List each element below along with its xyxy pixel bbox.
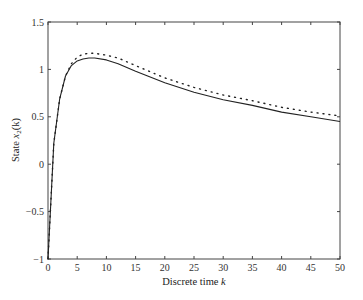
x-tick-label: 5	[75, 262, 80, 273]
y-tick-label: 1	[39, 64, 44, 75]
x-tick-label: 30	[218, 262, 228, 273]
y-tick-label: 0.5	[32, 111, 45, 122]
y-tick-label: 0	[39, 159, 44, 170]
line-chart: 05101520253035404550 −1−0.500.511.5 Disc…	[0, 0, 363, 300]
x-tick-label: 50	[335, 262, 345, 273]
dotted-series-line	[48, 53, 340, 259]
x-tick-label: 15	[131, 262, 141, 273]
y-tick-label: 1.5	[32, 17, 45, 28]
x-tick-label: 45	[306, 262, 316, 273]
x-tick-label: 40	[277, 262, 287, 273]
x-tick-label: 35	[247, 262, 257, 273]
series-group	[48, 53, 340, 259]
x-axis-ticks: 05101520253035404550	[46, 22, 346, 273]
x-tick-label: 0	[46, 262, 51, 273]
y-tick-label: −0.5	[26, 206, 44, 217]
y-axis-ticks: −1−0.500.511.5	[26, 17, 340, 265]
solid-series-line	[48, 58, 340, 259]
x-tick-label: 25	[189, 262, 199, 273]
x-tick-label: 10	[101, 262, 111, 273]
x-axis-label: Discrete time k	[162, 276, 226, 287]
y-axis-label: State x2(k)	[10, 117, 23, 162]
x-tick-label: 20	[160, 262, 170, 273]
y-tick-label: −1	[33, 254, 44, 265]
